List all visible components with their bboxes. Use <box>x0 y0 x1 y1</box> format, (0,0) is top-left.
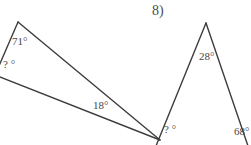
problem-8-number: 8) <box>152 4 164 18</box>
problem-7-unknown-angle-label: ? ° <box>3 59 15 70</box>
problem-7-top-angle-label: 71° <box>12 36 27 47</box>
p7-side-left-to-right <box>0 75 160 140</box>
geometry-worksheet-figures: ) 71° ? ° 18° 8) 28° ? ° 68° <box>0 0 251 145</box>
problem-8-unknown-angle-label: ? ° <box>164 124 176 135</box>
problem-8-apex-angle-label: 28° <box>199 51 214 62</box>
triangle-diagrams-svg <box>0 0 251 145</box>
problem-7-right-angle-label: 18° <box>93 100 108 111</box>
p7-side-apex-to-right <box>18 22 160 140</box>
problem-8-right-angle-label: 68° <box>234 126 249 137</box>
